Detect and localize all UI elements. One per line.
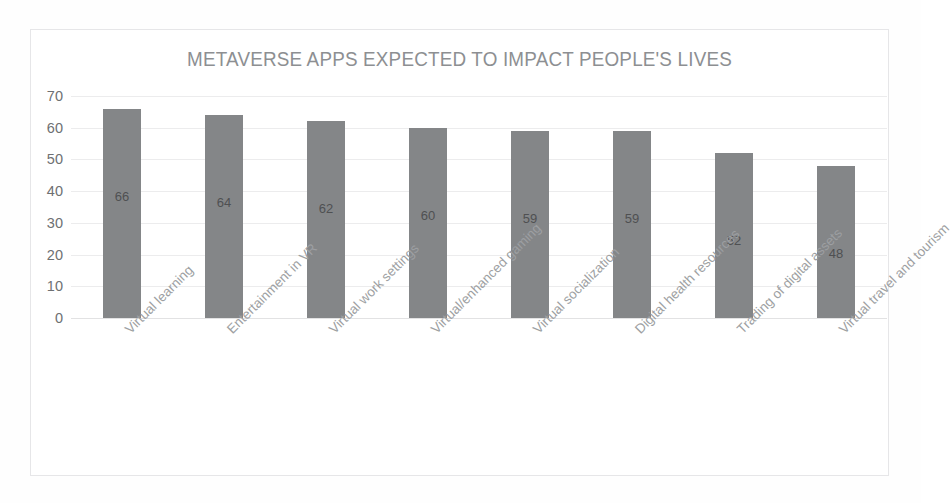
category-anchor: Virtual work settings: [275, 96, 377, 318]
y-axis-tick-label: 30: [47, 215, 63, 231]
category-anchor: Virtual/enhanced gaming: [377, 96, 479, 318]
chart-title: METAVERSE APPS EXPECTED TO IMPACT PEOPLE…: [65, 47, 853, 71]
x-axis-category-label: Virtual travel and tourism: [836, 221, 952, 337]
plot-area: 706050403020100 6664626059595248 Virtual…: [71, 96, 887, 318]
y-axis-tick-label: 10: [47, 278, 63, 294]
category-anchor: Trading of digital assets: [683, 96, 785, 318]
category-anchor: Virtual travel and tourism: [785, 96, 887, 318]
y-axis-tick-label: 40: [47, 183, 63, 199]
y-axis-tick-label: 0: [55, 310, 63, 326]
category-anchor: Digital health resources: [581, 96, 683, 318]
category-anchor: Virtual socialization: [479, 96, 581, 318]
y-axis-tick-label: 60: [47, 120, 63, 136]
y-axis-tick-label: 20: [47, 247, 63, 263]
gridline: [71, 318, 887, 319]
category-anchor: Entertainment in VR: [173, 96, 275, 318]
y-axis-tick-label: 70: [47, 88, 63, 104]
category-anchor: Virtual learning: [71, 96, 173, 318]
chart-frame: METAVERSE APPS EXPECTED TO IMPACT PEOPLE…: [30, 29, 889, 476]
y-axis-tick-label: 50: [47, 151, 63, 167]
